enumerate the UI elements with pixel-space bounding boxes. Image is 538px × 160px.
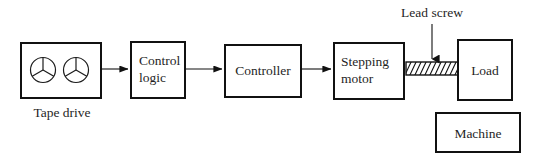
block-diagram-canvas: Tape drive Control logic Controller Step… — [0, 0, 538, 160]
stepping-motor-label-line2: motor — [341, 71, 374, 86]
block-load[interactable]: Load — [458, 40, 512, 100]
lead-screw-annotation-label: Lead screw — [401, 5, 463, 20]
block-control-logic[interactable]: Control logic — [131, 42, 185, 98]
tape-drive-caption: Tape drive — [33, 105, 90, 120]
tape-reel-right-icon — [64, 58, 89, 83]
machine-label: Machine — [454, 126, 501, 141]
block-controller[interactable]: Controller — [225, 45, 301, 97]
diagram-svg: Tape drive Control logic Controller Step… — [0, 0, 538, 160]
controller-label: Controller — [235, 63, 291, 78]
lead-screw-shaft[interactable] — [404, 60, 462, 77]
control-logic-label-line2: logic — [139, 70, 166, 85]
stepping-motor-label-line1: Stepping — [341, 54, 389, 69]
block-tape-drive[interactable] — [21, 43, 101, 98]
control-logic-label-line1: Control — [139, 53, 181, 68]
block-stepping-motor[interactable]: Stepping motor — [334, 43, 404, 99]
tape-reel-left-icon — [31, 58, 56, 83]
load-label: Load — [471, 63, 499, 78]
block-machine[interactable]: Machine — [436, 113, 520, 152]
